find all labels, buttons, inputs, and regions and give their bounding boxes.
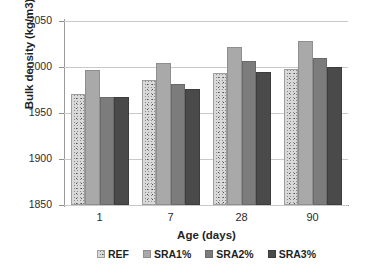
chart-legend: REFSRA1%SRA2%SRA3% bbox=[64, 248, 349, 260]
gridline bbox=[64, 205, 348, 206]
legend-swatch-icon bbox=[205, 250, 213, 258]
y-axis-tick-label: 2050 bbox=[0, 14, 52, 26]
x-axis-tick-label: 90 bbox=[283, 211, 343, 223]
x-axis-tick-label: 1 bbox=[70, 211, 130, 223]
legend-label: SRA3% bbox=[279, 248, 316, 260]
bar-sra1 bbox=[85, 70, 100, 205]
bulk-density-bar-chart: Bulk density (kg/m3) 1850190019502000205… bbox=[0, 0, 369, 274]
bar-sra2 bbox=[171, 84, 186, 205]
bar-ref bbox=[284, 69, 299, 205]
x-axis-tick-label: 7 bbox=[141, 211, 201, 223]
bar-sra2 bbox=[100, 97, 115, 205]
bar-group bbox=[277, 21, 348, 205]
x-axis-title: Age (days) bbox=[64, 229, 349, 241]
bar-sra2 bbox=[313, 58, 328, 205]
bar-sra3 bbox=[185, 89, 200, 205]
bar-group bbox=[135, 21, 206, 205]
bar-sra1 bbox=[156, 63, 171, 205]
y-axis-tick-label: 1850 bbox=[0, 198, 52, 210]
y-axis-tick-label: 1900 bbox=[0, 152, 52, 164]
bar-group bbox=[206, 21, 277, 205]
legend-item-ref: REF bbox=[97, 248, 129, 260]
bar-ref bbox=[213, 73, 228, 205]
legend-swatch-icon bbox=[268, 250, 276, 258]
bar-sra1 bbox=[298, 41, 313, 205]
bar-group bbox=[64, 21, 135, 205]
y-axis-tick-label: 1950 bbox=[0, 106, 52, 118]
legend-item-sra2: SRA2% bbox=[205, 248, 253, 260]
bar-sra1 bbox=[227, 47, 242, 205]
bar-sra3 bbox=[114, 97, 129, 205]
legend-swatch-icon bbox=[143, 250, 151, 258]
legend-swatch-icon bbox=[97, 250, 105, 258]
bar-sra2 bbox=[242, 61, 257, 205]
y-axis-tick-label: 2000 bbox=[0, 60, 52, 72]
bar-ref bbox=[142, 80, 157, 205]
bar-ref bbox=[71, 94, 86, 205]
bar-sra3 bbox=[256, 72, 271, 205]
legend-item-sra1: SRA1% bbox=[143, 248, 191, 260]
legend-label: SRA1% bbox=[154, 248, 191, 260]
legend-label: REF bbox=[108, 248, 129, 260]
bar-sra3 bbox=[327, 67, 342, 205]
x-axis-tick-label: 28 bbox=[212, 211, 272, 223]
plot-area bbox=[64, 21, 348, 205]
legend-label: SRA2% bbox=[216, 248, 253, 260]
legend-item-sra3: SRA3% bbox=[268, 248, 316, 260]
